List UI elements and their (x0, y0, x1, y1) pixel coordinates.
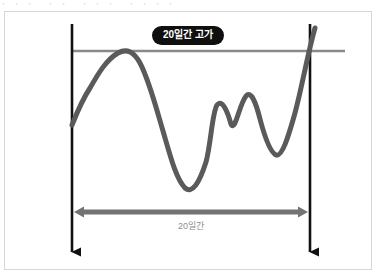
diagram-canvas: ・・・ ・・ ・・・ ・・・・ 20일간 고가 20일간 (0, 0, 382, 280)
period-span-label-text: 20일간 (178, 221, 204, 231)
price-wave-curve (72, 28, 315, 190)
period-span-label: 20일간 (0, 221, 382, 232)
twenty-day-high-badge: 20일간 고가 (152, 26, 224, 45)
badge-label: 20일간 고가 (163, 29, 213, 40)
